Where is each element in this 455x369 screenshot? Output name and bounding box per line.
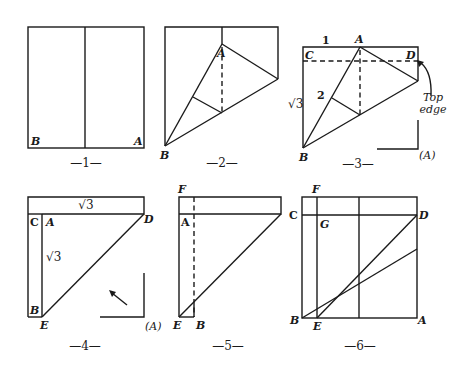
fold-line-BA bbox=[165, 44, 222, 146]
arrow-shaft bbox=[112, 293, 127, 305]
corner-bracket bbox=[100, 273, 144, 317]
figure-2: A B —2— bbox=[159, 27, 278, 170]
label-F: F bbox=[311, 183, 321, 196]
caption-5: —5— bbox=[212, 339, 244, 353]
figure-4: √3 C A D √3 B E (A) —4— bbox=[28, 197, 162, 353]
perpendicular-segment bbox=[332, 98, 360, 115]
label-D: D bbox=[143, 213, 154, 226]
label-sqrt3: √3 bbox=[288, 97, 303, 111]
label-sqrt3-top: √3 bbox=[78, 198, 93, 212]
label-G: G bbox=[320, 218, 329, 231]
figure-3: 1 A C D 2 √3 B Top edge (A) —3— bbox=[288, 33, 447, 171]
perpendicular-segment bbox=[193, 97, 222, 113]
caption-3: —3— bbox=[342, 157, 374, 171]
label-sqrt3-side: √3 bbox=[46, 250, 61, 264]
figure-6: F C G D B E A —6— bbox=[289, 183, 429, 353]
fold-line-BA bbox=[303, 47, 360, 148]
figure-1: B A —1— bbox=[28, 27, 144, 170]
label-E: E bbox=[172, 319, 182, 332]
label-B: B bbox=[159, 149, 169, 162]
label-C: C bbox=[289, 209, 298, 222]
label-C: C bbox=[305, 49, 314, 62]
label-D: D bbox=[405, 49, 416, 62]
label-E: E bbox=[312, 320, 322, 333]
corner-bracket bbox=[377, 120, 418, 149]
caption-4: —4— bbox=[69, 339, 101, 353]
label-A-paren: (A) bbox=[145, 320, 162, 333]
label-edge: edge bbox=[419, 103, 447, 116]
label-A: A bbox=[133, 135, 143, 148]
square-paper bbox=[28, 27, 144, 148]
label-B: B bbox=[195, 319, 205, 332]
label-A-paren: (A) bbox=[419, 149, 436, 162]
caption-1: —1— bbox=[70, 156, 102, 170]
label-1: 1 bbox=[322, 34, 330, 47]
label-A: A bbox=[180, 216, 190, 229]
figure-5: F A E B —5— bbox=[172, 183, 281, 353]
caption-2: —2— bbox=[206, 156, 238, 170]
label-A: A bbox=[354, 33, 364, 46]
label-E: E bbox=[39, 319, 49, 332]
label-B: B bbox=[289, 314, 299, 327]
fold-edge-top bbox=[222, 44, 278, 79]
label-D: D bbox=[418, 209, 429, 222]
label-B: B bbox=[29, 304, 39, 317]
label-C: C bbox=[30, 216, 39, 229]
label-B: B bbox=[30, 135, 40, 148]
origami-diagram: B A —1— A B —2— 1 A C D 2 √3 B Top edge bbox=[0, 0, 455, 369]
diagonal-ED bbox=[317, 215, 417, 318]
label-F: F bbox=[177, 183, 187, 196]
diagonal-ED bbox=[42, 214, 144, 317]
label-A: A bbox=[216, 47, 226, 60]
label-2: 2 bbox=[317, 89, 325, 102]
caption-6: —6— bbox=[344, 339, 376, 353]
label-A: A bbox=[417, 314, 427, 327]
label-B: B bbox=[298, 151, 308, 164]
label-A: A bbox=[45, 216, 55, 229]
